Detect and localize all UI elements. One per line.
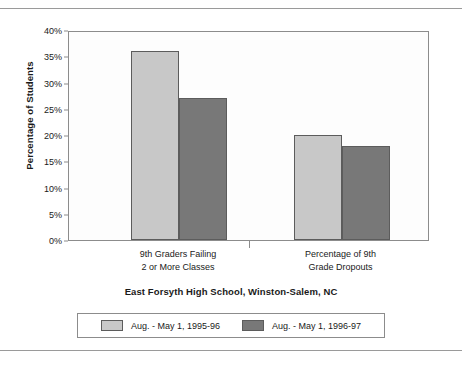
y-axis-tick-mark [64, 241, 68, 242]
x-axis-category-line: 9th Graders Failing [88, 248, 268, 261]
bar-aug-may-1-1995-96-0 [131, 51, 179, 240]
x-axis-category-label: Percentage of 9thGrade Dropouts [251, 248, 431, 273]
y-axis-tick-mark [64, 31, 68, 32]
x-axis-category-line: Percentage of 9th [251, 248, 431, 261]
legend-swatch-icon [242, 320, 264, 331]
plot-area [68, 31, 429, 241]
y-axis-tick-mark [64, 83, 68, 84]
bar-aug-may-1-1996-97-0 [179, 98, 227, 240]
y-axis-tick-mark [64, 188, 68, 189]
y-axis-tick-mark [64, 214, 68, 215]
legend-item: Aug. - May 1, 1996-97 [242, 320, 361, 331]
legend-item-label: Aug. - May 1, 1996-97 [272, 321, 361, 331]
chart-legend: Aug. - May 1, 1995-96 Aug. - May 1, 1996… [77, 313, 385, 338]
x-axis-category-separator [249, 241, 250, 248]
y-axis-tick-mark [64, 57, 68, 58]
bar-aug-may-1-1995-96-1 [294, 135, 342, 240]
chart-title: East Forsyth High School, Winston-Salem,… [0, 286, 462, 297]
y-axis-tick-mark [64, 136, 68, 137]
plot-inner [69, 32, 428, 240]
x-axis-category-label: 9th Graders Failing2 or More Classes [88, 248, 268, 273]
legend-item: Aug. - May 1, 1995-96 [101, 320, 220, 331]
page-rule-bottom [0, 350, 462, 351]
bar-aug-may-1-1996-97-1 [342, 146, 390, 241]
bar-chart-figure: Percentage of Students 0%5%10%15%20%25%3… [0, 8, 462, 350]
y-axis-tick-mark [64, 162, 68, 163]
x-axis-category-line: Grade Dropouts [251, 261, 431, 274]
y-axis-tick-mark [64, 109, 68, 110]
legend-swatch-icon [101, 320, 123, 331]
legend-item-label: Aug. - May 1, 1995-96 [131, 321, 220, 331]
x-axis-category-line: 2 or More Classes [88, 261, 268, 274]
y-axis-title: Percentage of Students [24, 31, 35, 201]
